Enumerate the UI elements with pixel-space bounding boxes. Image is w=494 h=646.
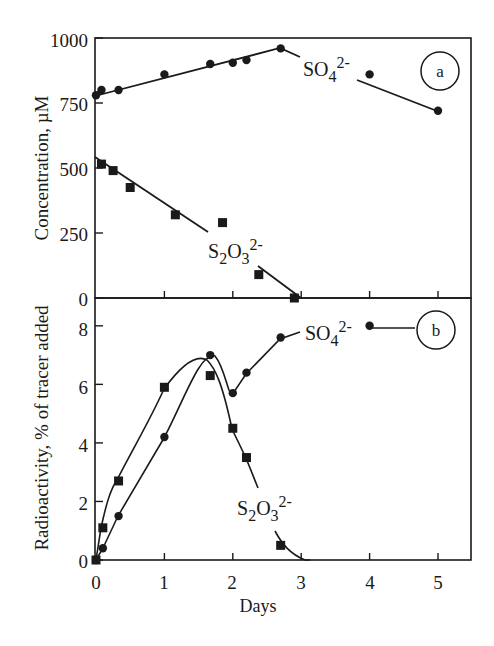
- square-marker: [126, 183, 135, 192]
- so4-fit-line-a2: [357, 80, 437, 111]
- y-tick-labels-b: 0 2 4 6 8: [79, 319, 89, 572]
- x-axis-label: Days: [240, 596, 277, 616]
- svg-text:b: b: [432, 321, 441, 340]
- x-tick-1: 1: [159, 572, 169, 593]
- x-tick-5: 5: [433, 572, 443, 593]
- y-tick-b-0: 0: [79, 551, 89, 572]
- panel-a-lines: [95, 48, 437, 298]
- s2o3-fit-line-a2: [258, 266, 301, 298]
- circle-marker: [206, 60, 214, 68]
- axis-ticks: [95, 38, 438, 560]
- circle-marker: [114, 512, 122, 520]
- y-tick-500: 500: [60, 159, 89, 180]
- square-marker: [254, 270, 263, 279]
- x-tick-0: 0: [91, 572, 101, 593]
- square-marker: [114, 476, 123, 485]
- circle-marker: [434, 107, 442, 115]
- so4-fit-line-a1: [95, 48, 300, 96]
- y-tick-1000: 1000: [50, 30, 88, 51]
- circle-marker: [99, 544, 107, 552]
- circle-marker: [242, 368, 250, 376]
- circle-marker: [114, 86, 122, 94]
- y-tick-b-6: 6: [79, 377, 89, 398]
- square-marker: [206, 371, 215, 380]
- panel-a-frame: [95, 38, 471, 298]
- y-tick-750: 750: [60, 94, 89, 115]
- y-tick-250: 250: [60, 224, 89, 245]
- data-markers: [92, 44, 443, 564]
- label-s2o3-a: S2O32-: [208, 236, 263, 267]
- svg-text:SO42-: SO42-: [303, 54, 350, 85]
- circle-marker: [276, 44, 284, 52]
- square-marker: [171, 210, 180, 219]
- circle-marker: [365, 322, 373, 330]
- square-marker: [218, 218, 227, 227]
- figure: 0 250 500 750 1000 0 2 4 6 8 0 1 2 3 4 5…: [0, 0, 494, 646]
- y-tick-b-2: 2: [79, 493, 89, 514]
- label-so4-b: SO42-: [305, 318, 352, 349]
- square-marker: [276, 541, 285, 550]
- circle-marker: [242, 56, 250, 64]
- circle-marker: [229, 59, 237, 67]
- x-tick-4: 4: [365, 572, 375, 593]
- svg-text:S2O32-: S2O32-: [208, 236, 263, 267]
- s2o3-curve-b: [96, 358, 258, 560]
- circle-marker: [276, 333, 284, 341]
- circle-marker: [160, 70, 168, 78]
- panel-a-badge: a: [421, 52, 459, 90]
- square-marker: [242, 453, 251, 462]
- square-marker: [228, 424, 237, 433]
- y-tick-labels-a: 0 250 500 750 1000: [50, 30, 88, 310]
- x-tick-3: 3: [296, 572, 306, 593]
- square-marker: [290, 294, 299, 303]
- square-marker: [97, 160, 106, 169]
- square-marker: [98, 523, 107, 532]
- circle-marker: [229, 389, 237, 397]
- square-marker: [160, 383, 169, 392]
- svg-text:SO42-: SO42-: [305, 318, 352, 349]
- label-s2o3-b: S2O32-: [237, 493, 292, 524]
- y-tick-b-4: 4: [79, 435, 89, 456]
- circle-marker: [97, 86, 105, 94]
- circle-marker: [365, 70, 373, 78]
- panel-b-badge: b: [417, 311, 455, 349]
- circle-marker: [160, 433, 168, 441]
- label-so4-a: SO42-: [303, 54, 350, 85]
- x-tick-labels: 0 1 2 3 4 5: [91, 572, 443, 593]
- y-axis-label-bottom: Radioactivity, % of tracer added: [31, 305, 52, 551]
- circle-marker: [206, 351, 214, 359]
- svg-text:a: a: [436, 62, 444, 81]
- panel-b-lines: [96, 328, 415, 560]
- y-tick-0: 0: [79, 289, 89, 310]
- y-tick-b-8: 8: [79, 319, 89, 340]
- x-tick-2: 2: [227, 572, 237, 593]
- so4-curve-b: [96, 332, 300, 560]
- y-axis-label-top: Concentration, µM: [31, 95, 52, 240]
- svg-text:S2O32-: S2O32-: [237, 493, 292, 524]
- square-marker: [109, 166, 118, 175]
- square-marker: [92, 556, 101, 565]
